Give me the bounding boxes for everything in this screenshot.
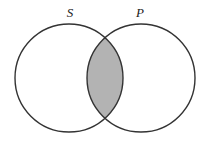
venn-diagram-canvas: S P: [0, 0, 209, 147]
set-label-s: S: [67, 5, 74, 20]
venn-diagram: S P: [0, 0, 209, 147]
set-label-p: P: [135, 5, 144, 20]
